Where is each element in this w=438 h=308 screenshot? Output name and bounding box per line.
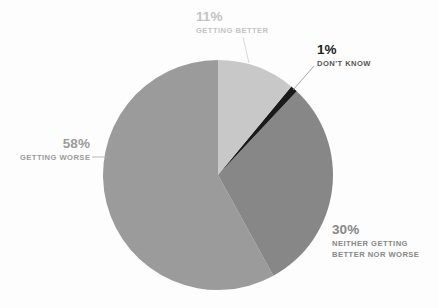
callout-dont-know-percent: 1% <box>317 42 371 57</box>
callout-getting-worse-label: GETTING WORSE <box>20 153 90 164</box>
callout-getting-worse-percent: 58% <box>20 136 90 151</box>
callout-neither-percent: 30% <box>332 222 419 237</box>
callout-getting-better-label: GETTING BETTER <box>196 26 269 37</box>
callout-neither-label-line2: BETTER NOR WORSE <box>332 250 419 261</box>
callout-getting-worse: 58% GETTING WORSE <box>20 136 90 164</box>
callout-getting-better-percent: 11% <box>196 9 269 24</box>
callout-neither-better-nor-worse: 30% NEITHER GETTING BETTER NOR WORSE <box>332 222 419 260</box>
leader-line-dont-know <box>293 66 314 90</box>
callout-getting-better: 11% GETTING BETTER <box>196 9 269 37</box>
pie-chart-figure: 11% GETTING BETTER 1% DON'T KNOW 30% NEI… <box>0 0 438 308</box>
callout-dont-know: 1% DON'T KNOW <box>317 42 371 70</box>
callout-dont-know-label: DON'T KNOW <box>317 59 371 70</box>
leader-line-getting-better <box>243 37 249 63</box>
callout-neither-label-line1: NEITHER GETTING <box>332 239 419 250</box>
